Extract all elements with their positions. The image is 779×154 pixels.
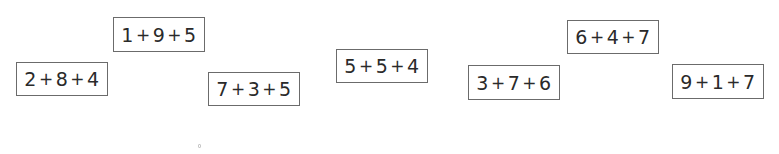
expression-card[interactable]: 2 + 8 + 4	[16, 62, 108, 96]
term: 1	[712, 71, 725, 93]
term: 8	[56, 68, 69, 90]
plus-sign: +	[359, 56, 374, 76]
expression-card[interactable]: 3 + 7 + 6	[468, 65, 560, 100]
term: 2	[24, 68, 37, 90]
term: 6	[575, 26, 588, 48]
term: 9	[153, 24, 166, 46]
expression-card[interactable]: 5 + 5 + 4	[336, 49, 428, 83]
term: 6	[539, 72, 552, 94]
term: 4	[607, 26, 620, 48]
term: 3	[476, 72, 489, 94]
term: 5	[344, 55, 357, 77]
plus-sign: +	[621, 27, 636, 47]
plus-sign: +	[167, 25, 182, 45]
stray-dot-mark	[198, 144, 201, 148]
worksheet-canvas: 1 + 9 + 5 2 + 8 + 4 7 + 3 + 5 5 + 5 + 4 …	[0, 0, 779, 154]
term: 7	[216, 78, 229, 100]
plus-sign: +	[522, 73, 537, 93]
plus-sign: +	[695, 72, 710, 92]
term: 5	[184, 24, 197, 46]
plus-sign: +	[262, 79, 277, 99]
plus-sign: +	[491, 73, 506, 93]
term: 7	[638, 26, 651, 48]
term: 4	[87, 68, 100, 90]
term: 4	[407, 55, 420, 77]
term: 7	[743, 71, 756, 93]
plus-sign: +	[231, 79, 246, 99]
term: 3	[248, 78, 261, 100]
plus-sign: +	[390, 56, 405, 76]
expression-card[interactable]: 1 + 9 + 5	[113, 17, 205, 52]
plus-sign: +	[726, 72, 741, 92]
plus-sign: +	[136, 25, 151, 45]
term: 5	[376, 55, 389, 77]
plus-sign: +	[70, 69, 85, 89]
expression-card[interactable]: 9 + 1 + 7	[672, 64, 764, 99]
plus-sign: +	[590, 27, 605, 47]
plus-sign: +	[39, 69, 54, 89]
expression-card[interactable]: 6 + 4 + 7	[567, 20, 659, 54]
term: 9	[680, 71, 693, 93]
expression-card[interactable]: 7 + 3 + 5	[208, 72, 300, 106]
term: 1	[121, 24, 134, 46]
term: 5	[279, 78, 292, 100]
term: 7	[508, 72, 521, 94]
